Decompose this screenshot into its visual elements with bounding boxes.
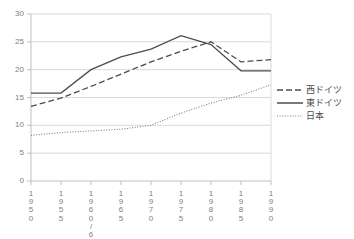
y-tick-label-0: 0 xyxy=(0,177,24,185)
legend-label-japan: 日本 xyxy=(306,111,324,121)
y-tick-label-15: 15 xyxy=(0,94,24,102)
x-tick-label-1990: 1 9 9 0 xyxy=(264,190,278,223)
x-tick-label-1980: 1 9 8 0 xyxy=(204,190,218,223)
y-axis-ticks xyxy=(27,14,31,181)
series-line-east-germany xyxy=(31,36,271,93)
dotted-line-swatch-icon xyxy=(277,111,303,121)
x-tick-label-1950: 1 9 5 0 xyxy=(24,190,38,223)
x-tick-label-1985: 1 9 8 5 xyxy=(234,190,248,223)
y-tick-label-30: 30 xyxy=(0,10,24,18)
x-axis-ticks xyxy=(31,181,271,185)
legend-item-japan: 日本 xyxy=(277,110,354,122)
series-line-west-germany xyxy=(31,42,271,107)
y-tick-label-10: 10 xyxy=(0,121,24,129)
x-tick-label-1970: 1 9 7 0 xyxy=(144,190,158,223)
gridlines xyxy=(31,14,271,153)
legend-item-east-germany: 東ドイツ xyxy=(277,97,354,109)
legend-item-west-germany: 西ドイツ xyxy=(277,84,354,96)
series-line-japan xyxy=(31,85,271,136)
legend-label-east-germany: 東ドイツ xyxy=(306,98,342,108)
x-tick-label-1960-61: 1 9 6 0 / 6 1 xyxy=(84,190,98,239)
x-tick-label-1955: 1 9 5 5 xyxy=(54,190,68,223)
dashed-line-swatch-icon xyxy=(277,85,303,95)
y-tick-label-25: 25 xyxy=(0,38,24,46)
solid-line-swatch-icon xyxy=(277,98,303,108)
x-tick-label-1965: 1 9 6 5 xyxy=(114,190,128,223)
chart-legend: 西ドイツ 東ドイツ 日本 xyxy=(277,84,354,123)
y-tick-label-20: 20 xyxy=(0,66,24,74)
line-chart: 30 25 20 15 10 5 0 1 9 5 0 1 9 5 5 1 9 6… xyxy=(0,0,354,239)
legend-label-west-germany: 西ドイツ xyxy=(306,85,342,95)
y-tick-label-5: 5 xyxy=(0,149,24,157)
x-tick-label-1975: 1 9 7 5 xyxy=(174,190,188,223)
